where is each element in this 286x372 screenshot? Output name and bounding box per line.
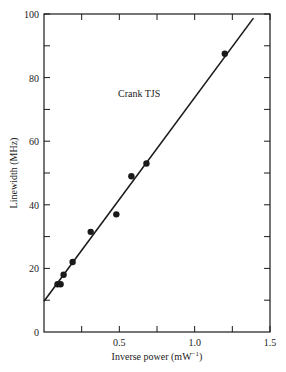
y-tick-label: 60 — [29, 136, 39, 147]
y-axis-ticks — [44, 14, 270, 300]
y-axis-title: Linewidth (MHz) — [8, 138, 20, 209]
x-axis-title-close: ) — [199, 351, 202, 363]
x-axis-ticks — [82, 14, 270, 332]
x-tick-label: 0.5 — [113, 337, 126, 348]
plot-frame — [44, 14, 270, 332]
y-tick-label: 20 — [29, 263, 39, 274]
y-tick-label: 40 — [29, 200, 39, 211]
y-tick-label: 80 — [29, 73, 39, 84]
plot-border — [44, 14, 270, 332]
x-axis-title: Inverse power (mW−1) — [112, 350, 203, 363]
x-axis-title-main: Inverse power (mW — [112, 351, 193, 363]
series-layer — [44, 18, 253, 301]
data-point — [128, 173, 134, 179]
y-tick-label: 100 — [24, 9, 39, 20]
y-axis-tick-labels: 020406080100 — [24, 9, 39, 338]
x-tick-label: 1.0 — [188, 337, 201, 348]
annotation-label: Crank TJS — [118, 88, 160, 99]
fit-line — [44, 18, 253, 301]
chart: 0.51.01.5 020406080100 Crank TJS Inverse… — [0, 0, 286, 372]
x-axis-tick-labels: 0.51.01.5 — [113, 337, 276, 348]
y-tick-label: 0 — [34, 327, 39, 338]
data-point — [113, 211, 119, 217]
x-tick-label: 1.5 — [264, 337, 277, 348]
